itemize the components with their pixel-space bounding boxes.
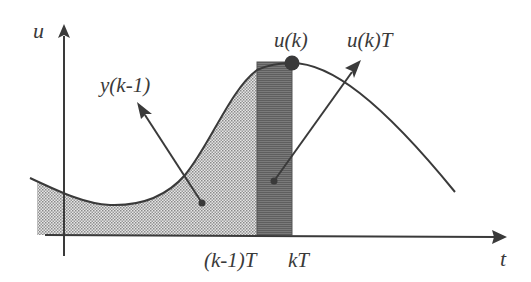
- u-axis-label: u: [33, 20, 44, 42]
- rect-area-label: u(k)T: [347, 30, 393, 51]
- previous-integral-anchor-dot-icon: [199, 200, 206, 207]
- sample-value-label: u(k): [274, 30, 308, 51]
- t-axis-label: t: [500, 248, 506, 270]
- t-axis-arrowhead-icon: [492, 230, 507, 244]
- rect-area-anchor-dot-icon: [271, 178, 278, 185]
- tick-label-prev: (k-1)T: [204, 250, 256, 271]
- u-axis-arrowhead-icon: [58, 24, 70, 38]
- rect-area-arrowhead-icon: [345, 60, 361, 78]
- integration-diagram: [0, 0, 531, 282]
- previous-integral-label: y(k-1): [100, 75, 150, 96]
- sample-point-icon: [285, 56, 300, 71]
- current-rectangle-area: [257, 62, 292, 235]
- t-axis: [45, 235, 496, 237]
- previous-integral-arrowhead-icon: [137, 102, 152, 119]
- tick-label-curr: kT: [288, 250, 309, 271]
